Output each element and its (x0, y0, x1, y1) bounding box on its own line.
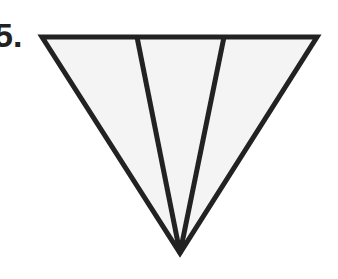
triangle-diagram (0, 0, 338, 279)
outer-triangle (42, 37, 317, 253)
